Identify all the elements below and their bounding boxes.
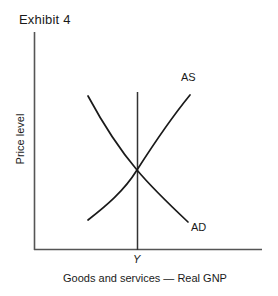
exhibit-figure: Exhibit 4 Price level Goods and services… [0,0,278,296]
aggregate-demand-label: AD [191,221,206,233]
aggregate-supply-label: AS [181,71,196,83]
x-axis-label: Goods and services — Real GNP [0,272,278,284]
aggregate-supply-curve [88,95,190,220]
equilibrium-output-label: Y [133,253,140,265]
y-axis-label: Price level [14,114,26,165]
chart-canvas [0,0,278,296]
